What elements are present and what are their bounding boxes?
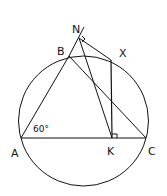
- label-c: C: [148, 145, 156, 158]
- angle-a-label: 60°: [33, 124, 49, 134]
- geometry-diagram: N B X A K C 60°: [0, 0, 167, 196]
- label-a: A: [11, 147, 19, 160]
- label-b: B: [57, 45, 65, 58]
- label-n: N: [72, 23, 80, 36]
- circumcircle: [19, 56, 149, 186]
- segment-xk: [111, 60, 112, 138]
- label-x: X: [119, 47, 127, 60]
- segment-nk: [79, 38, 112, 138]
- label-k: K: [107, 145, 115, 158]
- right-angle-mark-n: [82, 36, 85, 42]
- right-angle-mark-k: [112, 134, 117, 138]
